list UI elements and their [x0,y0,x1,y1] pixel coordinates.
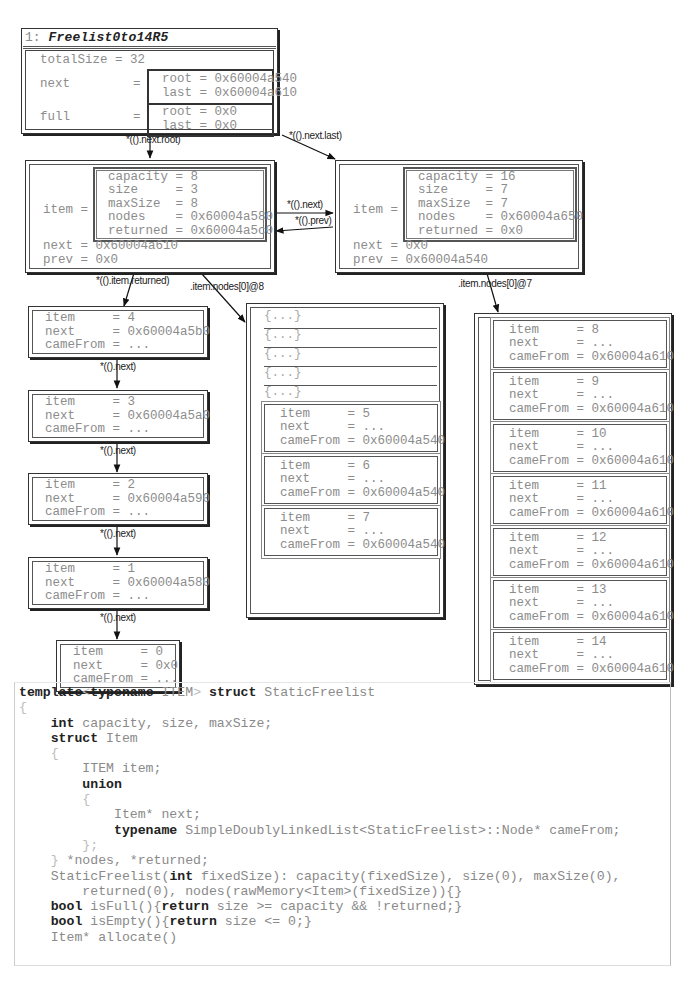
code-line: bool isFull(){return size >= capacity &&… [19,899,670,914]
full-root-field: root = 0x0 [162,106,237,120]
code-line: } *nodes, *returned; [19,853,670,868]
returned-node-3[interactable]: item = 3 next = 0x60004a5a0 cameFrom = .… [28,390,208,442]
code-line: union [19,777,670,792]
panel-index: 1: [25,30,41,45]
returned-field: returned = 0x60004a5c0 [108,225,273,239]
node-item-6[interactable]: item = 6 next = ... cameFrom = 0x60004a5… [264,456,438,504]
node-item-12[interactable]: item = 12 next = ... cameFrom = 0x60004a… [493,528,667,576]
prev-field: prev = 0x60004a540 [353,254,488,268]
size-field: size = 3 [108,184,198,198]
full-struct[interactable]: root = 0x0 last = 0x0 [147,103,274,137]
next-struct[interactable]: root = 0x60004a540 last = 0x60004a610 [147,69,274,105]
next-field: next = ... [509,545,614,559]
edge-label-nodes-7: .item.nodes[0]@7 [458,278,532,289]
next-label: next [40,78,70,92]
node-item-5[interactable]: item = 5 next = ... cameFrom = 0x60004a5… [264,404,438,452]
nodes-field: nodes = 0x60004a580 [108,211,273,225]
panel-title: 1: Freelist0to14R5 [25,31,168,45]
code-line: template<typename ITEM> struct StaticFre… [19,685,670,700]
next-field: next = ... [280,525,385,539]
came-from-field: cameFrom = 0x60004a610 [509,663,674,677]
edge-label-chain-next: *(().next) [100,445,136,456]
next-field: next = ... [509,389,614,403]
came-from-field: cameFrom = 0x60004a610 [509,611,674,625]
node-item-13[interactable]: item = 13 next = ... cameFrom = 0x60004a… [493,580,667,628]
came-from-field: cameFrom = ... [45,423,150,437]
came-from-field: cameFrom = 0x60004a610 [509,455,674,469]
full-label: full [40,111,70,125]
next-field: next = 0x60004a610 [43,240,178,254]
came-from-field: cameFrom = 0x60004a610 [509,559,674,573]
next-field: next = ... [509,649,614,663]
next-field: next = ... [509,493,614,507]
size-field: size = 7 [418,184,508,198]
full-eq: = [133,111,141,125]
item-field: item = 1 [45,563,135,577]
freelist-panel-a[interactable]: item = capacity = 8 size = 3 maxSize = 8… [25,160,275,273]
returned-field: returned = 0x0 [418,225,523,239]
root-fields: totalSize = 32 next = root = 0x60004a540… [25,50,274,130]
nodes-field: nodes = 0x60004a650 [418,211,583,225]
nodes-array-a[interactable]: {...} {...} {...} {...} {...} item = 5 n… [246,303,444,618]
edge-label-nodes-8: .item.nodes[0]@8 [190,281,264,292]
edge-label-chain-next: *(().next) [100,528,136,539]
came-from-field: cameFrom = 0x60004a540 [280,435,445,449]
came-from-field: cameFrom = 0x60004a610 [509,507,674,521]
returned-node-1[interactable]: item = 1 next = 0x60004a580 cameFrom = .… [28,557,208,609]
panel-title-text: Freelist0to14R5 [48,30,168,45]
total-size-field: totalSize = 32 [40,54,145,68]
prev-field: prev = 0x0 [43,254,118,268]
returned-node-2[interactable]: item = 2 next = 0x60004a590 cameFrom = .… [28,473,208,525]
next-last-field: last = 0x60004a610 [162,87,297,101]
next-field: next = 0x0 [353,240,428,254]
root-panel[interactable]: 1: Freelist0to14R5 totalSize = 32 next =… [21,28,278,134]
code-line: }; [19,838,670,853]
code-line: ITEM item; [19,761,670,776]
item-field: item = 0 [73,646,163,660]
item-label: item = [353,204,398,218]
node-item-11[interactable]: item = 11 next = ... cameFrom = 0x60004a… [493,476,667,524]
node-item-7[interactable]: item = 7 next = ... cameFrom = 0x60004a5… [264,508,438,556]
edge-label-prev: *(().prev) [295,215,331,226]
collapsed-node[interactable]: {...} [264,310,302,324]
next-field: next = ... [280,473,385,487]
next-eq: = [133,78,141,92]
collapsed-node[interactable]: {...} [264,348,302,362]
node-item-8[interactable]: item = 8 next = ... cameFrom = 0x60004a6… [493,320,667,368]
item-label: item = [43,204,88,218]
came-from-field: cameFrom = 0x60004a540 [280,487,445,501]
code-line: struct Item [19,731,670,746]
freelist-panel-b[interactable]: item = capacity = 16 size = 7 maxSize = … [335,160,583,273]
node-item-9[interactable]: item = 9 next = ... cameFrom = 0x60004a6… [493,372,667,420]
next-field: next = ... [509,337,614,351]
item-field: item = 3 [45,396,135,410]
edge-label-next-last: *(().next.last) [289,130,342,141]
code-line: returned(0), nodes(rawMemory<Item>(fixed… [19,884,670,899]
code-line: { [19,700,670,715]
collapsed-node[interactable]: {...} [264,386,302,400]
code-line: { [19,792,670,807]
collapsed-node[interactable]: {...} [264,329,302,343]
item-struct[interactable]: capacity = 8 size = 3 maxSize = 8 nodes … [93,167,267,242]
next-field: next = ... [509,441,614,455]
source-code-pane[interactable]: template<typename ITEM> struct StaticFre… [14,682,671,966]
returned-node-4[interactable]: item = 4 next = 0x60004a5b0 cameFrom = .… [28,306,208,358]
full-last-field: last = 0x0 [162,120,237,134]
code-line: int capacity, size, maxSize; [19,716,670,731]
came-from-field: cameFrom = ... [45,339,150,353]
edge-label-chain-next: *(().next) [100,361,136,372]
edge-label-next: *(().next) [287,199,323,210]
collapsed-node[interactable]: {...} [264,367,302,381]
came-from-field: cameFrom = 0x60004a540 [280,539,445,553]
next-field: next = ... [509,597,614,611]
nodes-array-b[interactable]: item = 8 next = ... cameFrom = 0x60004a6… [474,313,672,685]
came-from-field: cameFrom = ... [45,590,150,604]
code-line: { [19,746,670,761]
node-item-10[interactable]: item = 10 next = ... cameFrom = 0x60004a… [493,424,667,472]
came-from-field: cameFrom = ... [45,506,150,520]
code-line: bool isEmpty(){return size <= 0;} [19,914,670,929]
item-field: item = 2 [45,479,135,493]
code-line: typename SimpleDoublyLinkedList<StaticFr… [19,823,670,838]
node-item-14[interactable]: item = 14 next = ... cameFrom = 0x60004a… [493,632,667,680]
item-struct[interactable]: capacity = 16 size = 7 maxSize = 7 nodes… [403,167,577,242]
